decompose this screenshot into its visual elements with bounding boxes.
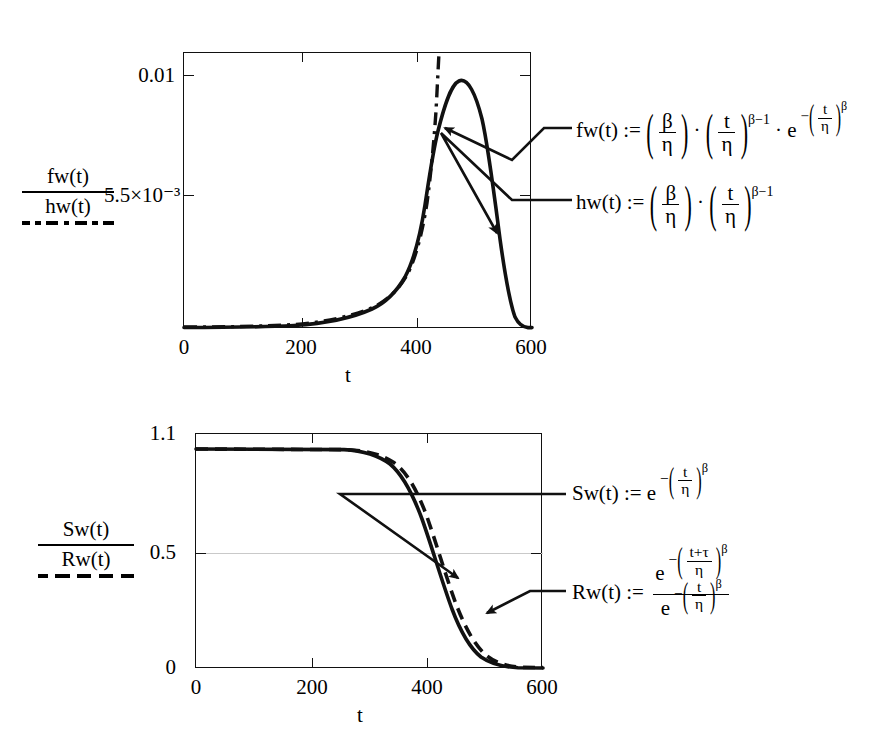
top-chart-xtick-label-400: 400	[392, 335, 440, 360]
paren-right-glyph: )	[741, 103, 748, 162]
top-chart-y-axis-legend: fw(t) hw(t)	[22, 165, 114, 225]
top-chart-xtick-label-0: 0	[172, 335, 196, 360]
top-chart-legend-dashed-label: hw(t)	[22, 195, 114, 219]
rw-big-fraction: e − ( t+τ η ) β e − (	[653, 560, 729, 628]
rw-den-exponent-block: − ( t η ) β	[670, 585, 722, 602]
fw-dot-2: ·	[775, 118, 782, 142]
top-chart-xtick-label-600: 600	[507, 335, 555, 360]
bottom-chart-legend-solid-line-icon	[38, 544, 134, 546]
top-chart-ytick-label-1: 5.5×10⁻³	[104, 183, 176, 208]
sw-exp-beta: β	[702, 461, 708, 475]
bottom-chart-sw-definition: Sw(t) := e − ( t η ) β	[572, 480, 708, 514]
fw-exp-term: ( t η )	[809, 102, 841, 135]
rw-den-minus: −	[674, 585, 683, 602]
fw-beta: β	[659, 110, 676, 133]
hw-term1: ( β η )	[650, 182, 692, 227]
rw-num-t-plus-tau: t+τ	[687, 544, 712, 561]
paren-left-glyph: (	[709, 175, 716, 234]
bottom-chart-xtick-label-200: 200	[288, 675, 336, 700]
bottom-chart-legend-dashed-label: Rw(t)	[38, 548, 134, 572]
top-chart-legend-solid-label: fw(t)	[22, 165, 114, 190]
rw-den-t: t	[692, 579, 706, 596]
top-chart-curves	[184, 53, 532, 329]
hw-eta-2: η	[722, 205, 739, 227]
t-over-eta-fraction: t η	[692, 579, 706, 613]
rw-denominator: e − ( t η ) β	[653, 595, 729, 629]
top-chart-plot-frame	[183, 52, 531, 328]
fw-exp-beta: β	[841, 99, 847, 113]
bottom-chart-curves	[196, 434, 543, 669]
figure-page: fw(t) hw(t) 0.01 5.5×10⁻³	[0, 0, 873, 753]
bottom-chart-sw-definition-name: Sw(t)	[572, 481, 619, 505]
bottom-chart-rw-definition: Rw(t) := e − ( t+τ η ) β	[572, 560, 729, 628]
bottom-chart-ytick-label-0-5: 0.5	[128, 540, 176, 565]
top-chart-ytick-label-1-text: 5.5×10⁻³	[104, 183, 180, 207]
top-chart-legend-solid-line-icon	[22, 191, 114, 193]
bottom-chart-sw-curve-solid	[196, 449, 543, 668]
hw-term2: ( t η )	[709, 182, 751, 227]
beta-over-eta-fraction: β η	[662, 182, 679, 227]
top-chart-fw-definition: fw(t) := ( β η ) · ( t η ) β−1 · e	[576, 110, 847, 155]
rw-den-beta: β	[716, 577, 722, 591]
bottom-chart-sw-definition-assign: :=	[624, 481, 642, 505]
paren-left-glyph: (	[646, 103, 653, 162]
bottom-chart-legend-solid-label: Sw(t)	[38, 518, 134, 543]
top-chart-hw-definition: hw(t) := ( β η ) · ( t η ) β−1	[576, 182, 773, 227]
top-chart-legend-dash-dot-line-icon	[22, 221, 114, 225]
top-chart-xtick-label-200: 200	[277, 335, 325, 360]
fw-exponent-block: − ( t η ) β	[797, 108, 848, 124]
paren-right-glyph: )	[685, 175, 692, 234]
sw-exp-t: t	[678, 464, 692, 481]
hw-dot-1: ·	[697, 190, 704, 214]
fw-exp-t: t	[818, 102, 832, 119]
top-chart-ytick-label-0: 0.01	[113, 63, 175, 88]
bottom-chart-xtick-label-400: 400	[403, 675, 451, 700]
bottom-chart-ytick-label-1-1: 1.1	[128, 421, 176, 446]
t-over-eta-fraction: t η	[678, 464, 692, 498]
t-over-eta-fraction-exp: t η	[818, 102, 832, 135]
fw-dot-1: ·	[694, 118, 701, 142]
bottom-chart-rw-definition-assign: :=	[626, 580, 644, 604]
fw-exp-minus: −	[800, 108, 809, 124]
fw-t: t	[718, 110, 735, 133]
hw-t: t	[722, 182, 739, 205]
fw-eta-2: η	[718, 133, 735, 155]
rw-den-term: ( t η )	[683, 579, 716, 613]
sw-exp-term: ( t η )	[669, 464, 702, 498]
fw-exponent-beta-minus-1: β−1	[748, 112, 770, 127]
rw-num-exponent-block: − ( t+τ η ) β	[665, 551, 728, 568]
paren-right-glyph: )	[744, 175, 751, 234]
paren-right-glyph: )	[681, 103, 688, 162]
paren-left-glyph: (	[650, 175, 657, 234]
hw-exponent-beta-minus-1: β−1	[752, 184, 774, 199]
top-chart-hw-definition-assign: :=	[627, 190, 645, 214]
top-chart-x-axis-title: t	[345, 363, 351, 388]
bottom-chart-y-axis-legend: Sw(t) Rw(t)	[38, 518, 134, 578]
sw-exp-eta: η	[678, 481, 692, 497]
bottom-chart-rw-curve-dashed	[196, 449, 543, 668]
top-chart-hw-definition-name: hw(t)	[576, 190, 622, 214]
rw-den-eta: η	[692, 596, 706, 612]
fw-term2: ( t η )	[706, 110, 748, 155]
sw-exp-minus: −	[660, 470, 669, 487]
bottom-chart-xtick-label-0: 0	[184, 675, 208, 700]
bottom-chart: Sw(t) Rw(t) 1.1 0.5 0	[0, 400, 873, 753]
bottom-chart-xtick-label-600: 600	[518, 675, 566, 700]
fw-eta: η	[659, 133, 676, 155]
hw-eta: η	[662, 205, 679, 227]
bottom-chart-x-axis-title: t	[357, 703, 363, 728]
t-over-eta-fraction: t η	[722, 182, 739, 227]
t-over-eta-fraction: t η	[718, 110, 735, 155]
paren-left-glyph: (	[706, 103, 713, 162]
fw-term1: ( β η )	[646, 110, 688, 155]
bottom-chart-plot-frame	[195, 433, 542, 668]
bottom-chart-ytick-label-0: 0	[128, 655, 176, 680]
top-chart-fw-definition-name: fw(t)	[576, 118, 618, 142]
sw-e: e	[647, 481, 656, 505]
sw-exponent-block: − ( t η ) β	[656, 470, 708, 487]
hw-beta: β	[662, 182, 679, 205]
beta-over-eta-fraction: β η	[659, 110, 676, 155]
top-chart: fw(t) hw(t) 0.01 5.5×10⁻³	[0, 0, 873, 400]
rw-den-e: e	[661, 596, 670, 620]
rw-num-minus: −	[668, 551, 677, 568]
